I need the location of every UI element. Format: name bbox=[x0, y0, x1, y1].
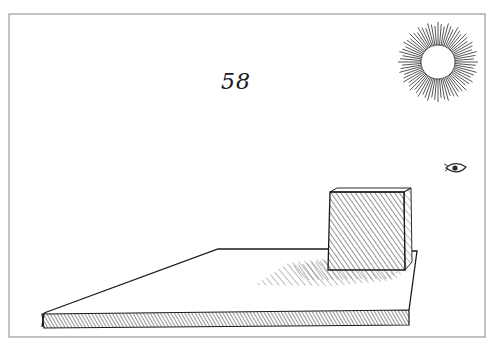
cube bbox=[328, 188, 412, 270]
eye-icon bbox=[444, 164, 466, 172]
plate-number: 58 bbox=[221, 69, 251, 94]
board-front-edge bbox=[42, 310, 409, 328]
engraving-canvas bbox=[0, 0, 492, 347]
cube-front bbox=[328, 192, 405, 270]
sun-icon bbox=[398, 22, 478, 102]
